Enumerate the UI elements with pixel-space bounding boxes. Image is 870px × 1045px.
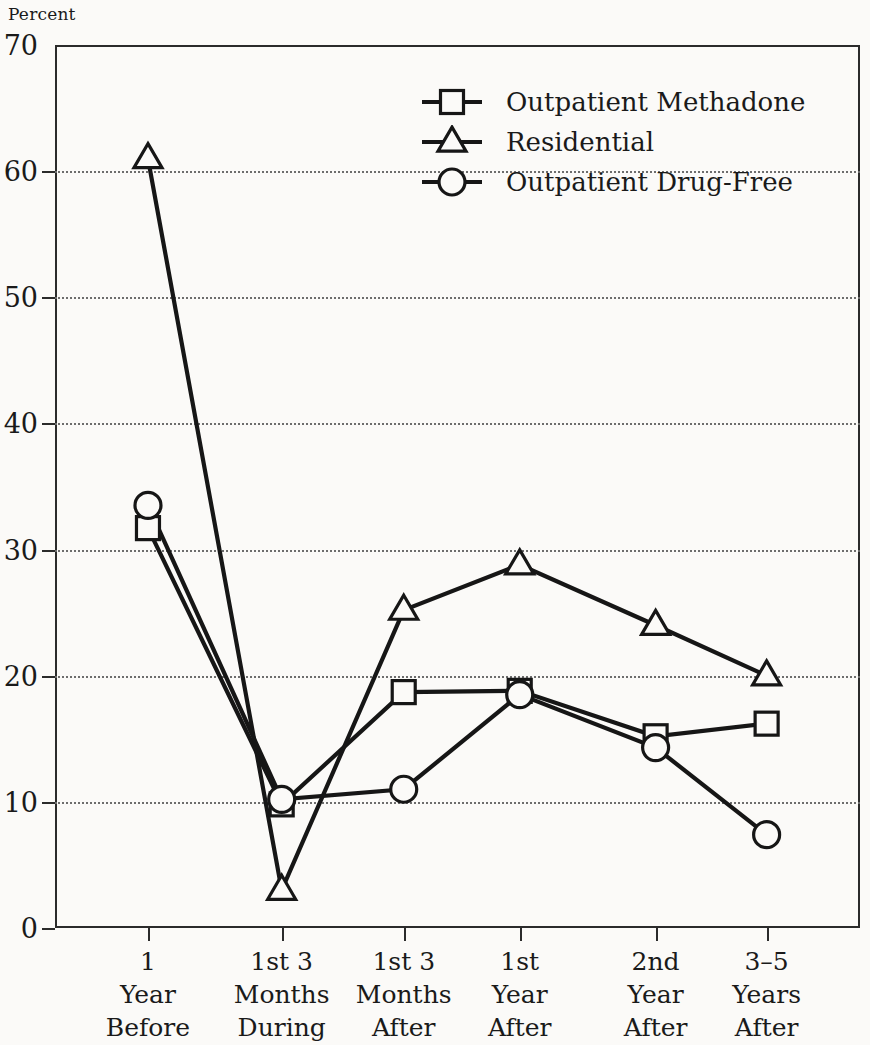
series-markers xyxy=(134,144,781,900)
y-tick-50 xyxy=(42,297,55,299)
x-axis-category-6-line-1: 3–5 xyxy=(732,945,801,978)
y-axis-label-10: 10 xyxy=(4,788,38,815)
legend-label-1: Outpatient Methadone xyxy=(506,89,805,115)
data-point-s3-x4 xyxy=(507,682,533,708)
y-tick-60 xyxy=(42,171,55,173)
x-tick-6 xyxy=(767,928,769,941)
legend-key-glyph-2 xyxy=(420,125,484,159)
y-tick-0 xyxy=(42,928,55,930)
y-tick-10 xyxy=(42,802,55,804)
y-axis-label-70: 70 xyxy=(4,32,38,59)
y-axis-label-60: 60 xyxy=(4,158,38,185)
data-point-s3-x3 xyxy=(391,776,417,802)
legend-item-1: Outpatient Methadone xyxy=(420,82,805,122)
x-axis-category-1: 1YearBefore xyxy=(106,945,190,1044)
x-axis-category-1-line-2: Year xyxy=(106,978,190,1011)
data-point-s2-x2 xyxy=(268,875,296,899)
legend-label-3: Outpatient Drug-Free xyxy=(506,169,793,195)
x-axis-category-1-line-1: 1 xyxy=(106,945,190,978)
x-axis-category-3-line-2: Months xyxy=(356,978,452,1011)
legend: Outpatient MethadoneResidentialOutpatien… xyxy=(420,82,805,202)
legend-label-2: Residential xyxy=(506,129,654,155)
legend-key-marker-3 xyxy=(439,169,465,195)
y-tick-30 xyxy=(42,550,55,552)
data-point-s2-x4 xyxy=(506,550,534,574)
x-axis-category-5-line-1: 2nd xyxy=(624,945,688,978)
x-tick-4 xyxy=(520,928,522,941)
series-line-2 xyxy=(148,159,767,891)
data-point-s3-x6 xyxy=(754,822,780,848)
x-axis-category-4-line-2: Year xyxy=(488,978,552,1011)
square-icon xyxy=(420,85,484,119)
data-point-s1-x1 xyxy=(136,517,159,540)
data-point-s3-x1 xyxy=(135,492,161,518)
x-axis-category-6: 3–5YearsAfter xyxy=(732,945,801,1044)
y-axis-label-0: 0 xyxy=(21,915,38,942)
x-axis-category-3-line-1: 1st 3 xyxy=(356,945,452,978)
x-tick-1 xyxy=(148,928,150,941)
y-tick-40 xyxy=(42,423,55,425)
data-point-s1-x3 xyxy=(392,681,415,704)
legend-item-3: Outpatient Drug-Free xyxy=(420,162,805,202)
x-tick-5 xyxy=(656,928,658,941)
x-axis-category-4-line-3: After xyxy=(488,1011,552,1044)
y-tick-20 xyxy=(42,676,55,678)
y-axis-label-40: 40 xyxy=(4,410,38,437)
x-axis-category-3-line-3: After xyxy=(356,1011,452,1044)
x-axis-category-6-line-2: Years xyxy=(732,978,801,1011)
circle-icon xyxy=(420,165,484,199)
x-axis-category-2-line-2: Months xyxy=(234,978,330,1011)
x-axis-category-4: 1stYearAfter xyxy=(488,945,552,1044)
x-tick-2 xyxy=(282,928,284,941)
data-point-s3-x5 xyxy=(643,735,669,761)
data-point-s3-x2 xyxy=(269,786,295,812)
y-axis-label-30: 30 xyxy=(4,536,38,563)
x-tick-3 xyxy=(404,928,406,941)
legend-item-2: Residential xyxy=(420,122,805,162)
data-point-s2-x1 xyxy=(134,144,162,168)
x-axis-category-5: 2ndYearAfter xyxy=(624,945,688,1044)
y-axis-unit-label: Percent xyxy=(8,4,76,24)
legend-key-marker-1 xyxy=(441,91,464,114)
x-axis-category-2-line-1: 1st 3 xyxy=(234,945,330,978)
series-lines xyxy=(148,159,767,891)
data-point-s1-x6 xyxy=(755,712,778,735)
x-axis-category-1-line-3: Before xyxy=(106,1011,190,1044)
y-axis-label-50: 50 xyxy=(4,284,38,311)
x-axis-category-4-line-1: 1st xyxy=(488,945,552,978)
legend-key-glyph-3 xyxy=(420,165,484,199)
x-axis-category-5-line-3: After xyxy=(624,1011,688,1044)
x-axis-category-3: 1st 3MonthsAfter xyxy=(356,945,452,1044)
legend-key-marker-2 xyxy=(438,127,466,151)
chart-figure: Percent 010203040506070 1YearBefore1st 3… xyxy=(0,0,870,1045)
x-axis-category-6-line-3: After xyxy=(732,1011,801,1044)
x-axis-category-5-line-2: Year xyxy=(624,978,688,1011)
triangle-icon xyxy=(420,125,484,159)
y-axis-label-20: 20 xyxy=(4,662,38,689)
legend-key-glyph-1 xyxy=(420,85,484,119)
x-axis-category-2-line-3: During xyxy=(234,1011,330,1044)
x-axis-category-2: 1st 3MonthsDuring xyxy=(234,945,330,1044)
